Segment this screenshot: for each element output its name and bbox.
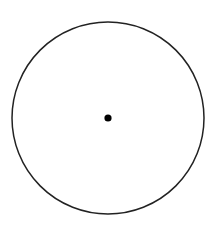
center-point	[104, 114, 111, 121]
diagram-canvas	[0, 0, 217, 236]
